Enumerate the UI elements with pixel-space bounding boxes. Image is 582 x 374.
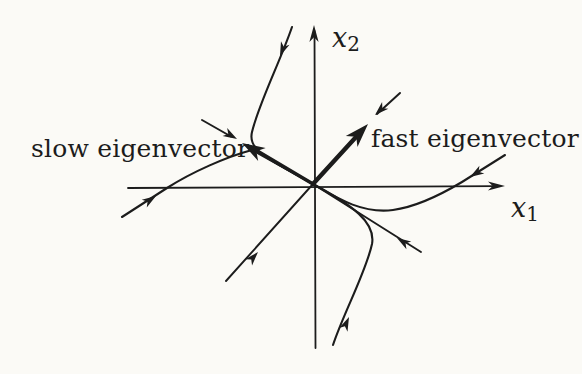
x2-axis-label: x2	[332, 24, 360, 54]
fast-eigenvector-shaft	[313, 137, 356, 184]
phase-portrait-canvas	[0, 0, 582, 374]
x1-axis-label-base: x	[511, 192, 526, 223]
flow-arrowhead-curve-right	[470, 166, 484, 177]
x2-axis-line	[315, 31, 316, 348]
slow-eigenvector-label: slow eigenvector	[31, 136, 249, 161]
phase-portrait-figure: slow eigenvector fast eigenvector x1 x2	[0, 0, 582, 374]
x1-axis-label: x1	[511, 194, 539, 224]
flow-arrowhead-fast-upper-right	[375, 102, 388, 115]
x2-axis-label-base: x	[332, 22, 347, 53]
x2-axis-label-subscript: 2	[347, 32, 360, 56]
x1-axis-label-subscript: 1	[526, 202, 539, 226]
fast-eigenvector-label: fast eigenvector	[371, 126, 579, 151]
trajectory-fast-lower-left	[226, 184, 313, 281]
flow-arrowhead-fast-lower-left	[245, 252, 258, 265]
